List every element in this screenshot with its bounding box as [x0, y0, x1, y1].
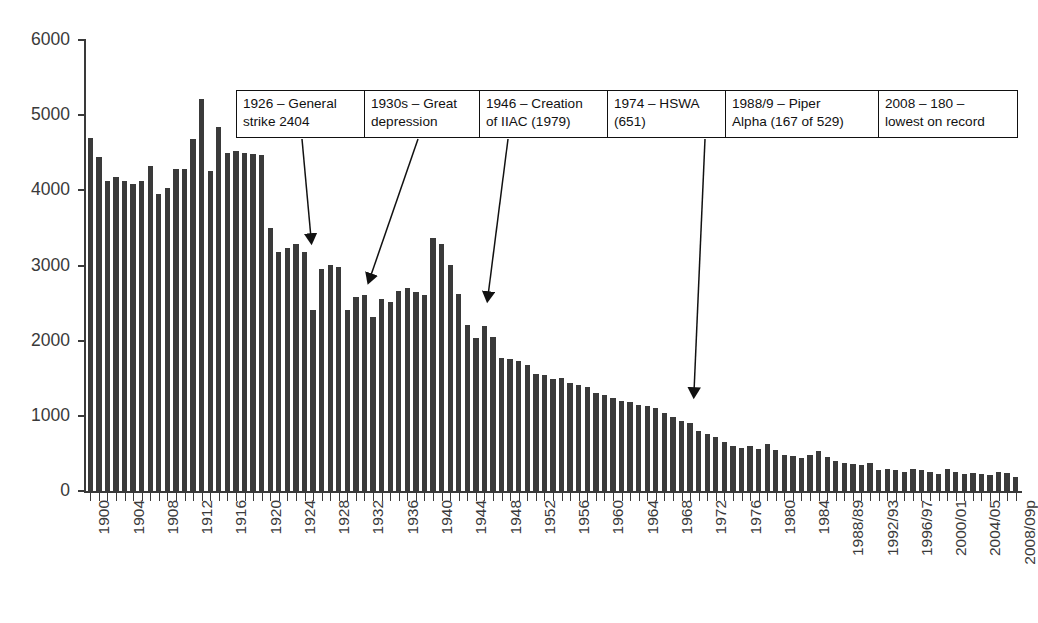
bar [867, 463, 872, 491]
annotation-box-1926: 1926 – General strike 2404 [236, 90, 364, 138]
annotation-line-2: (651) [614, 113, 720, 131]
bar [345, 310, 350, 491]
bar [96, 157, 101, 491]
bar [182, 169, 187, 491]
bar [225, 153, 230, 491]
bar [533, 374, 538, 491]
annotation-line-2: lowest on record [885, 113, 1012, 131]
bar [148, 166, 153, 491]
annotation-line-2: Alpha (167 of 529) [732, 113, 873, 131]
annotation-line-1: 1946 – Creation [486, 95, 602, 113]
bar [113, 177, 118, 491]
bar [713, 437, 718, 491]
bar [816, 451, 821, 491]
bar [593, 393, 598, 491]
bar [799, 458, 804, 491]
bar [790, 456, 795, 491]
bar [302, 252, 307, 491]
bar [88, 138, 93, 491]
bar [945, 469, 950, 491]
bar [919, 470, 924, 491]
annotation-line-2: of IIAC (1979) [486, 113, 602, 131]
bar [679, 421, 684, 491]
bar [1013, 477, 1018, 491]
bar [825, 457, 830, 491]
bar [645, 406, 650, 491]
bar [448, 265, 453, 491]
bar [722, 442, 727, 491]
bar [199, 99, 204, 491]
bar [122, 181, 127, 491]
bar [850, 464, 855, 491]
bar [250, 154, 255, 491]
bar [807, 455, 812, 491]
bar [585, 387, 590, 491]
bar [953, 472, 958, 491]
bar [902, 472, 907, 491]
bar [482, 326, 487, 491]
bar [490, 337, 495, 491]
bar [430, 238, 435, 491]
annotation-strip: 1926 – General strike 2404 1930s – Great… [236, 90, 1018, 138]
bar [610, 398, 615, 491]
bar [876, 470, 881, 491]
bar [208, 171, 213, 491]
bar [987, 475, 992, 491]
bar [747, 446, 752, 491]
bar [105, 181, 110, 491]
bar [550, 379, 555, 491]
bar [319, 269, 324, 491]
bar [687, 423, 692, 491]
bar [190, 139, 195, 491]
bar [362, 295, 367, 491]
annotation-line-1: 2008 – 180 – [885, 95, 1012, 113]
bar [730, 446, 735, 491]
bar [328, 265, 333, 491]
bar [782, 455, 787, 491]
bar [525, 365, 530, 491]
bar [422, 295, 427, 491]
bar [405, 288, 410, 491]
bar [165, 188, 170, 491]
bar [859, 465, 864, 491]
annotation-box-1946: 1946 – Creation of IIAC (1979) [479, 90, 607, 138]
bar [962, 474, 967, 491]
bar [259, 155, 264, 491]
bar [996, 472, 1001, 491]
bar [979, 474, 984, 491]
bar [542, 375, 547, 491]
bar [662, 413, 667, 491]
bar [439, 244, 444, 491]
bar [885, 469, 890, 491]
bar [456, 294, 461, 491]
bar [353, 297, 358, 491]
bar [739, 448, 744, 491]
bar [773, 450, 778, 491]
annotation-line-2: depression [371, 113, 474, 131]
bar [465, 325, 470, 491]
annotation-box-2008: 2008 – 180 – lowest on record [878, 90, 1018, 138]
bar [653, 408, 658, 491]
bar [936, 474, 941, 491]
bar [233, 151, 238, 491]
bar [413, 292, 418, 491]
bar [139, 181, 144, 491]
bar [516, 361, 521, 491]
bar [388, 302, 393, 491]
annotation-box-1974: 1974 – HSWA (651) [607, 90, 725, 138]
bar [576, 385, 581, 491]
bar [627, 402, 632, 491]
bar [499, 358, 504, 491]
bar [379, 299, 384, 491]
bar [473, 338, 478, 491]
annotation-line-1: 1930s – Great [371, 95, 474, 113]
annotation-line-1: 1988/9 – Piper [732, 95, 873, 113]
annotation-line-2: strike 2404 [243, 113, 359, 131]
bar [396, 291, 401, 491]
bar [970, 473, 975, 491]
bar [833, 461, 838, 491]
bar [156, 194, 161, 491]
bar [293, 244, 298, 491]
bar [559, 378, 564, 491]
